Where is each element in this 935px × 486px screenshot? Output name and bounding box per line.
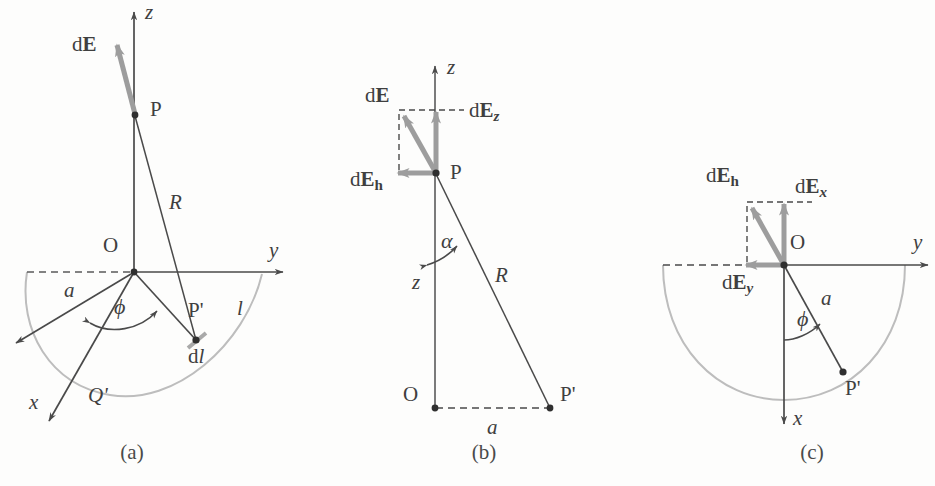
panel-b-field-h-label: dEh [350, 169, 383, 193]
panel-a-point-p [132, 112, 139, 119]
panel-c-source-dot [839, 368, 846, 375]
panel-c-field-h-vector [752, 208, 784, 265]
panel-c-origin-dot [780, 261, 787, 268]
panel-b-field-label: dE [365, 85, 390, 106]
panel-b-point-p-prime-label: P' [560, 384, 575, 405]
panel-c-x-axis-label: x [793, 408, 802, 429]
panel-c-y-axis-label: y [913, 232, 922, 253]
panel-b-field-z-label: dEz [469, 100, 499, 124]
panel-b-distance-label: R [495, 265, 508, 286]
caption-a: (a) [110, 440, 154, 465]
panel-a-distance-label: R [169, 192, 182, 213]
panel-a-element-label: dl [188, 346, 204, 367]
panel-b-source-dot [547, 405, 554, 412]
panel-a-x-axis-label: x [29, 392, 38, 413]
panel-c-point-p-prime-label: P' [845, 378, 860, 399]
caption-c: (c) [790, 440, 834, 465]
panel-a-field-label: dE [72, 34, 97, 55]
panel-a-radius-label: a [64, 280, 75, 301]
panel-b-origin-label: O [403, 384, 418, 405]
panel-c-radius-vector [784, 265, 843, 372]
panel-c-field-x-label: dEx [795, 176, 827, 200]
panel-b-distance-R [436, 174, 550, 408]
panel-a-charge-arc [26, 272, 262, 396]
panel-a-point-p-label: P [150, 99, 162, 120]
panel-b-angle-label: α [441, 230, 453, 252]
panel-c-angle-label: ϕ [797, 308, 808, 330]
panel-b-field-vector [404, 116, 436, 173]
panel-b-point-p-label: P [450, 162, 462, 183]
panel-a-point-p-prime-label: P' [188, 300, 203, 321]
panel-a-source-dot [192, 336, 199, 343]
panel-a-origin-label: O [103, 235, 118, 256]
panel-b-radius-label: a [487, 417, 498, 438]
panel-a-arc-length-label: l [237, 298, 243, 319]
panel-a-charge-label: Q' [88, 385, 108, 406]
panel-b-height-label: z [412, 272, 420, 293]
figure-canvas: z y x O P P' a R l dl Q' ϕ dE z dE dEz d… [0, 0, 935, 486]
caption-b: (b) [462, 440, 506, 465]
panel-a-z-axis-label: z [145, 2, 153, 23]
panel-c-field-y-label: dEy [722, 272, 753, 296]
panel-a-origin-dot [131, 269, 138, 276]
panel-c-field-h-label: dEh [706, 165, 739, 189]
panel-a-y-axis-label: y [269, 240, 278, 261]
panel-b-point-p [432, 169, 439, 176]
panel-a-field-vector [117, 45, 135, 114]
panel-b-z-axis-label: z [447, 57, 455, 78]
panel-b-origin-dot [432, 405, 439, 412]
panel-a-angle-label: ϕ [114, 296, 125, 318]
panel-a-graphics [16, 12, 283, 421]
panel-c-radius-label: a [821, 288, 832, 309]
panel-c-origin-label: O [790, 232, 805, 253]
